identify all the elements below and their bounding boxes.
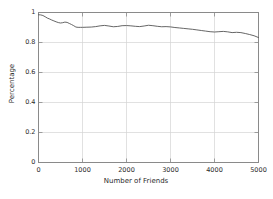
- tickmarks-group: [39, 13, 259, 163]
- data-line-series-percentage: [39, 15, 259, 38]
- plot-frame: [39, 13, 259, 163]
- x-tick-label: 2000: [107, 167, 147, 174]
- y-tick-label: 0.8: [25, 39, 35, 46]
- y-tick-label: 1: [31, 9, 35, 16]
- y-axis-label: Percentage: [9, 54, 16, 114]
- x-axis-label: Number of Friends: [0, 178, 272, 185]
- chart-figure: 00.20.40.60.81 010002000300040005000 Num…: [0, 0, 272, 199]
- gridlines-group: [39, 13, 259, 163]
- y-tick-label: 0.6: [25, 69, 35, 76]
- x-tick-label: 1000: [63, 167, 103, 174]
- x-tick-label: 0: [19, 167, 59, 174]
- y-tick-label: 0.4: [25, 99, 35, 106]
- x-tick-label: 4000: [195, 167, 235, 174]
- x-tick-label: 5000: [239, 167, 273, 174]
- x-tick-label: 3000: [151, 167, 191, 174]
- y-tick-label: 0: [31, 159, 35, 166]
- y-tick-label: 0.2: [25, 129, 35, 136]
